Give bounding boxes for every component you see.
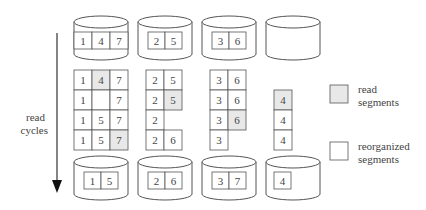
top-disk-2: 25	[138, 16, 192, 60]
segment-label: 1	[80, 94, 86, 106]
segment-label: 3	[216, 134, 222, 146]
segment-label: 5	[170, 94, 176, 106]
segment-label: 7	[116, 114, 122, 126]
segment-label: 4	[98, 35, 104, 47]
top-disk-4	[266, 16, 320, 60]
disk-top	[138, 16, 192, 28]
arrow-label-line2: cycles	[21, 124, 48, 136]
segment-grid-3: 3636363	[210, 70, 246, 150]
segment-label: 4	[280, 114, 286, 126]
segment-grids-row: 1471715715725252263636363444	[74, 70, 292, 150]
bottom-disk-3: 37	[202, 156, 256, 200]
segment-label: 3	[218, 175, 224, 187]
top-disk-1: 147	[74, 16, 128, 60]
legend-reorganized-swatch	[330, 142, 348, 160]
segment-label: 1	[80, 114, 86, 126]
arrow-label-line1: read	[26, 111, 45, 123]
segment-grid-1: 14717157157	[74, 70, 128, 150]
segment-label: 7	[116, 35, 122, 47]
segment-label: 4	[280, 94, 286, 106]
disk-reorganization-diagram: 1472536 1471715715725252263636363444 152…	[0, 0, 426, 210]
segment-label: 7	[235, 175, 241, 187]
bottom-disks-row: 1526374	[74, 156, 320, 200]
segment-label: 7	[116, 74, 122, 86]
segment-label: 7	[116, 134, 122, 146]
segment-label: 2	[152, 114, 158, 126]
disk-top	[138, 156, 192, 168]
bottom-disk-1: 15	[74, 156, 128, 200]
segment-label: 1	[80, 74, 86, 86]
top-disk-3: 36	[202, 16, 256, 60]
disk-top	[74, 16, 128, 28]
disk-top	[266, 156, 320, 168]
segment-label: 5	[98, 114, 104, 126]
legend: read segments reorganized segments	[330, 83, 410, 165]
bottom-disk-4: 4	[266, 156, 320, 200]
disk-top	[74, 156, 128, 168]
segment-label: 4	[280, 134, 286, 146]
top-disks-row: 1472536	[74, 16, 320, 60]
segment-label: 4	[98, 74, 104, 86]
segment-label: 6	[171, 175, 177, 187]
segment-label: 3	[216, 74, 222, 86]
disk-top	[266, 16, 320, 28]
segment-label: 2	[154, 175, 160, 187]
bottom-disk-2: 26	[138, 156, 192, 200]
segment-label: 6	[170, 134, 176, 146]
legend-read-label-line2: segments	[358, 96, 399, 108]
segment-label: 6	[235, 35, 241, 47]
segment-label: 5	[170, 74, 176, 86]
segment-grid-4: 444	[274, 90, 292, 150]
legend-read-label-line1: read	[358, 83, 377, 95]
disk-top	[202, 156, 256, 168]
arrow-head	[52, 180, 62, 193]
segment-label: 3	[216, 94, 222, 106]
segment-label: 5	[98, 134, 104, 146]
disk-top	[202, 16, 256, 28]
segment-label: 2	[154, 35, 160, 47]
segment-label: 5	[171, 35, 177, 47]
segment-label: 2	[152, 134, 158, 146]
segment-label: 6	[234, 74, 240, 86]
segment-cell	[92, 90, 110, 110]
segment-label: 1	[90, 175, 96, 187]
segment-label: 6	[234, 114, 240, 126]
legend-read-swatch	[330, 85, 348, 103]
segment-label: 3	[218, 35, 224, 47]
segment-label: 6	[234, 94, 240, 106]
segment-label: 3	[216, 114, 222, 126]
segment-label: 1	[80, 134, 86, 146]
legend-reorganized-label-line2: segments	[358, 153, 399, 165]
segment-grid-2: 2525226	[146, 70, 182, 150]
segment-label: 4	[280, 175, 286, 187]
segment-label: 5	[107, 175, 113, 187]
legend-reorganized-label-line1: reorganized	[358, 140, 410, 152]
segment-label: 2	[152, 94, 158, 106]
read-cycles-arrow: read cycles	[21, 33, 62, 193]
segment-label: 1	[80, 35, 86, 47]
segment-label: 2	[152, 74, 158, 86]
segment-label: 7	[116, 94, 122, 106]
